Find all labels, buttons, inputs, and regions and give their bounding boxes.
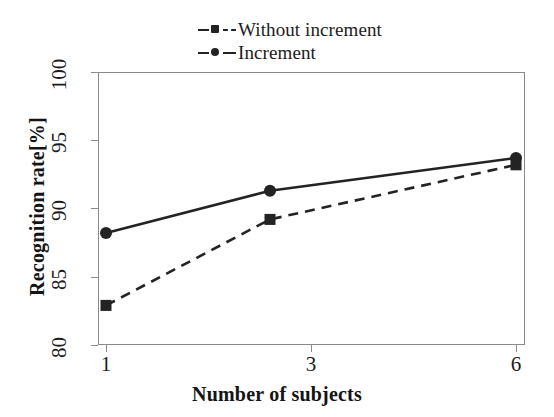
y-tick-label-100: 100 <box>47 45 72 105</box>
x-tick-label-6: 6 <box>496 352 536 377</box>
plot-area <box>98 72 525 345</box>
y-axis-title: Recognition rate[%] <box>26 87 49 327</box>
y-tick-mark-90 <box>91 208 98 209</box>
x-axis-title: Number of subjects <box>0 383 554 406</box>
y-tick-label-85: 85 <box>47 250 72 310</box>
x-tick-label-3: 3 <box>291 352 331 377</box>
x-tick-mark-1 <box>106 345 107 352</box>
y-tick-mark-100 <box>91 72 98 73</box>
y-tick-label-95: 95 <box>47 113 72 173</box>
legend-label-increment: Increment <box>238 43 316 63</box>
legend-marker-square-dashed-icon <box>196 20 238 40</box>
legend-marker-circle-solid-icon <box>196 43 238 63</box>
chart-figure: Without increment Increment 100 95 90 85… <box>0 0 554 417</box>
x-tick-label-1: 1 <box>86 352 126 377</box>
y-tick-label-90: 90 <box>47 181 72 241</box>
y-tick-label-80: 80 <box>47 318 72 378</box>
x-tick-mark-3 <box>311 345 312 352</box>
y-tick-mark-80 <box>91 345 98 346</box>
legend-item-without-increment: Without increment <box>196 18 456 41</box>
legend-label-without-increment: Without increment <box>238 20 382 40</box>
legend-item-increment: Increment <box>196 41 456 64</box>
x-tick-mark-6 <box>516 345 517 352</box>
y-tick-mark-85 <box>91 277 98 278</box>
y-tick-mark-95 <box>91 140 98 141</box>
chart-legend: Without increment Increment <box>196 18 456 64</box>
